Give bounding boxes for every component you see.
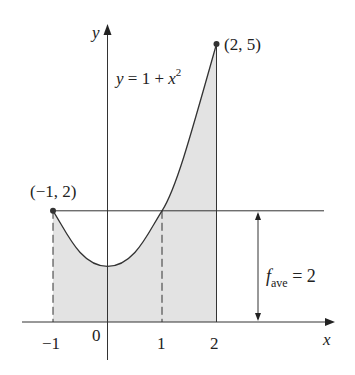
y-axis-label: y: [90, 23, 100, 42]
point-label-neg1-2: (−1, 2): [30, 182, 76, 201]
tick-label-neg1: −1: [42, 334, 60, 353]
average-value-diagram: y x −1 0 1 2 (−1, 2) (2, 5) y = 1 + x2 f…: [0, 0, 355, 375]
x-axis-label: x: [322, 330, 331, 349]
curve-equation-label: y = 1 + x2: [114, 66, 181, 88]
average-value-label: fave = 2: [266, 266, 316, 290]
tick-label-1: 1: [157, 334, 166, 353]
point-2-5: [214, 41, 220, 47]
point-neg1-2: [50, 208, 56, 214]
point-label-2-5: (2, 5): [224, 35, 261, 54]
fave-arrow-up-icon: [255, 212, 261, 220]
x-axis-arrow-icon: [325, 318, 335, 326]
fave-arrow-down-icon: [255, 313, 261, 321]
tick-label-0: 0: [92, 326, 101, 345]
y-axis-arrow-icon: [104, 24, 112, 35]
tick-label-2: 2: [210, 334, 219, 353]
